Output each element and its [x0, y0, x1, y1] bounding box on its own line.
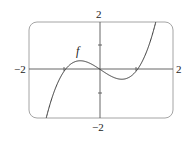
y-max-label: 2 [96, 9, 102, 20]
function-curve-f [46, 22, 155, 118]
x-min-label: −2 [14, 64, 26, 75]
function-label: f [76, 45, 79, 57]
y-min-label: −2 [92, 122, 104, 133]
x-max-label: 2 [176, 64, 182, 75]
graph-canvas [0, 0, 187, 141]
